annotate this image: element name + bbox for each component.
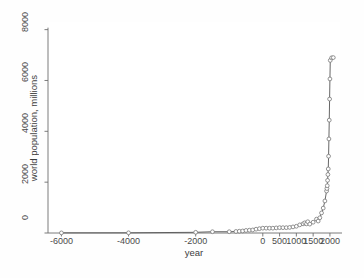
data-point	[327, 137, 331, 141]
data-point	[327, 118, 331, 122]
data-point	[326, 178, 330, 182]
data-point	[320, 211, 324, 215]
x-tick-label: -4000	[117, 236, 140, 246]
axes-group	[48, 28, 342, 233]
data-line	[61, 58, 333, 233]
data-markers	[60, 56, 336, 235]
y-tick-label: 0	[20, 215, 42, 220]
data-point	[321, 206, 325, 210]
data-point	[227, 230, 231, 234]
data-point	[127, 231, 131, 235]
data-point	[331, 56, 335, 60]
data-point	[327, 154, 331, 158]
figure-container: world population, millions -6000-4000-20…	[0, 0, 364, 278]
data-point	[328, 97, 332, 101]
y-tick-label: 8000	[20, 12, 42, 32]
y-tick-label: 4000	[20, 113, 42, 133]
x-axis-title: year	[48, 247, 340, 258]
data-point	[318, 216, 322, 220]
y-tick-label: 6000	[20, 62, 42, 82]
data-point	[60, 231, 64, 235]
x-tick-label: -6000	[50, 236, 73, 246]
y-tick-label: 2000	[20, 164, 42, 184]
data-point	[326, 167, 330, 171]
x-tick-label: 0	[260, 236, 265, 246]
data-point	[194, 230, 198, 234]
data-point	[311, 220, 315, 224]
ticks-group	[45, 30, 330, 237]
data-point	[328, 77, 332, 81]
x-tick-label: 2000	[320, 236, 340, 246]
data-point	[323, 199, 327, 203]
data-point	[325, 184, 329, 188]
x-tick-label: 500	[272, 236, 287, 246]
x-tick-label: -2000	[184, 236, 207, 246]
data-point	[326, 173, 330, 177]
data-point	[211, 230, 215, 234]
